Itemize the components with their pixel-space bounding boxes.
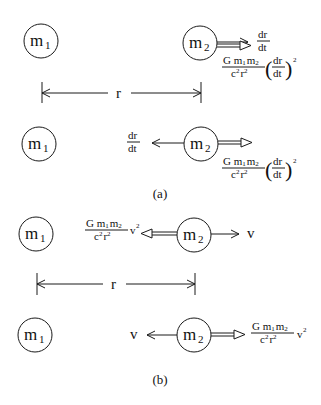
panel-b: m 1 m 2 G m1m2 c2r2 v (18, 217, 307, 387)
exponent: 2 (293, 157, 297, 165)
force-numerator: G m1m2 (223, 54, 259, 67)
mass-m1: m 1 (19, 217, 53, 251)
mass-label: m (30, 31, 43, 50)
velocity-label: dr dt (127, 129, 140, 154)
force-numerator: G m1m2 (252, 320, 288, 333)
mass-subscript: 1 (40, 232, 46, 244)
fraction-numerator: dr (258, 28, 268, 40)
fraction-denominator: dt (258, 41, 267, 53)
num-sub2: 2 (284, 325, 288, 333)
mass-label: m (183, 325, 196, 344)
num-sub1: 1 (105, 222, 109, 230)
exponent: 2 (136, 222, 140, 230)
force-denominator: c2r2 (231, 67, 248, 79)
exponent: 2 (293, 56, 297, 64)
num-sub1: 1 (271, 325, 275, 333)
velocity-arrow-right (211, 230, 239, 238)
panel-a: m 1 m 2 dr dt (22, 24, 297, 201)
factor-numerator: dr (273, 155, 283, 167)
num-sub2: 2 (118, 222, 122, 230)
force-hollow-arrow-right (211, 330, 245, 339)
den-sup2: 2 (107, 230, 111, 238)
factor-numerator: dr (273, 54, 283, 66)
velocity-arrow-left (152, 139, 184, 147)
left-paren: ( (265, 56, 272, 81)
mass-subscript: 2 (198, 233, 204, 245)
panel-b-scene-2: m 1 m 2 v G m1m2 (18, 318, 307, 352)
force-label: G m1m2 c2r2 ( dr dt ) 2 (222, 54, 297, 81)
panel-a-scene-2: m 1 m 2 dr dt (22, 127, 297, 182)
num-G: G m (223, 155, 243, 167)
force-hollow-arrow-right (218, 138, 252, 147)
num-sub1: 1 (242, 59, 246, 67)
num-G: G m (252, 320, 272, 332)
panel-a-scene-1: m 1 m 2 dr dt (24, 24, 297, 81)
mass-label: m (183, 225, 196, 244)
panel-caption: (a) (153, 186, 167, 201)
exponent: 2 (303, 326, 307, 334)
den-sup1: 2 (265, 333, 269, 341)
velocity-label: v (247, 225, 255, 241)
mass-subscript: 1 (39, 333, 45, 345)
mass-subscript: 2 (198, 333, 204, 345)
mass-subscript: 1 (43, 142, 49, 154)
den-sup2: 2 (273, 333, 277, 341)
mass-label: m (25, 224, 38, 243)
mass-subscript: 1 (45, 39, 51, 51)
mass-subscript: 2 (204, 41, 210, 53)
fraction-numerator: dr (128, 129, 138, 141)
mass-label: m (28, 134, 41, 153)
mass-m1: m 1 (18, 318, 52, 352)
force-denominator: c2r2 (231, 168, 248, 180)
mass-m2: m 2 (184, 127, 218, 161)
force-hollow-arrow-left (141, 229, 177, 238)
force-label: G m1m2 c2r2 ( dr dt ) 2 (222, 155, 297, 182)
right-paren: ) (285, 157, 292, 182)
fraction-denominator: dt (128, 142, 137, 154)
panel-caption: (b) (152, 372, 167, 387)
force-numerator: G m1m2 (223, 155, 259, 168)
left-paren: ( (265, 157, 272, 182)
mass-m2: m 2 (177, 318, 211, 352)
mass-label: m (190, 134, 203, 153)
separation-label: r (116, 85, 121, 101)
relativistic-force-diagram: m 1 m 2 dr dt (0, 0, 321, 405)
mass-m2: m 2 (183, 26, 217, 60)
right-paren: ) (285, 56, 292, 81)
panel-b-scene-1: m 1 m 2 G m1m2 c2r2 v (19, 217, 255, 252)
velocity-label: dr dt (257, 28, 270, 53)
mass-label: m (24, 325, 37, 344)
mass-label: m (189, 33, 202, 52)
num-sub1: 1 (242, 160, 246, 168)
force-numerator: G m1m2 (86, 217, 122, 230)
velocity-arrow-left (147, 331, 177, 339)
separation-label: r (111, 276, 116, 292)
force-label: G m1m2 c2r2 v 2 (85, 217, 140, 242)
velocity-label: v (130, 326, 138, 342)
num-sub2: 2 (255, 160, 259, 168)
den-sup2: 2 (244, 67, 248, 75)
num-G: G m (223, 54, 243, 66)
num-G: G m (86, 217, 106, 229)
separation-dimension-a: r (42, 82, 201, 103)
force-denominator: c2r2 (94, 230, 111, 242)
factor-denominator: dt (273, 168, 282, 180)
force-denominator: c2r2 (260, 333, 277, 345)
num-sub2: 2 (255, 59, 259, 67)
den-sup1: 2 (99, 230, 103, 238)
den-sup1: 2 (236, 168, 240, 176)
mass-m1: m 1 (24, 24, 58, 58)
den-sup2: 2 (244, 168, 248, 176)
mass-m1: m 1 (22, 127, 56, 161)
force-label: G m1m2 c2r2 v 2 (251, 320, 307, 345)
factor-denominator: dt (273, 67, 282, 79)
mass-subscript: 2 (205, 142, 211, 154)
separation-dimension-b: r (37, 273, 195, 295)
den-sup1: 2 (236, 67, 240, 75)
mass-m2: m 2 (177, 218, 211, 252)
